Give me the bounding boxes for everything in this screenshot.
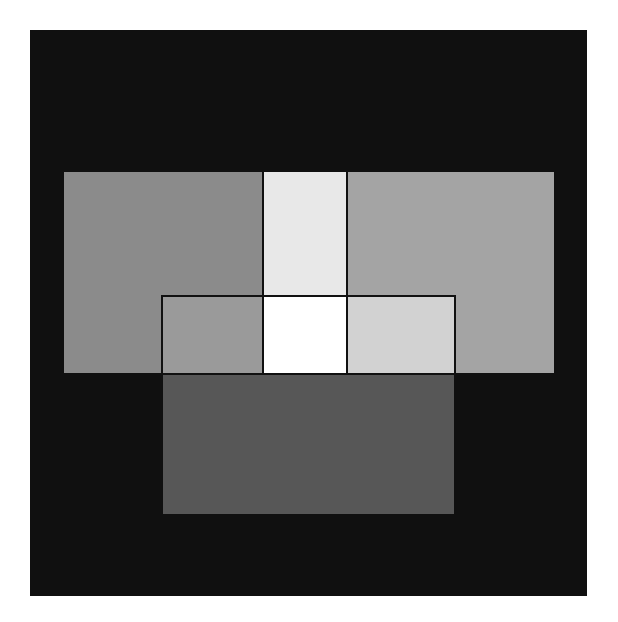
strip-right-border — [346, 172, 348, 374]
inner-box-outline — [161, 295, 456, 375]
bottom-panel — [163, 373, 454, 514]
strip-left-border — [262, 172, 264, 374]
top-center-strip — [263, 172, 347, 296]
